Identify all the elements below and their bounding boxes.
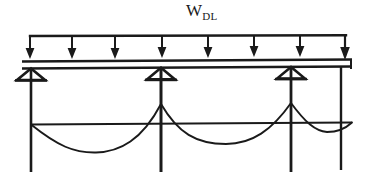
load-arrow-group [26,35,350,60]
continuous-beam [22,59,352,69]
load-arrow [204,36,213,58]
load-arrow [250,36,259,58]
deflection-datum-line [31,123,352,125]
load-line [30,35,346,36]
load-arrow [68,36,77,59]
load-arrow [340,35,350,60]
load-arrow [296,35,305,57]
load-arrow [26,36,35,59]
load-arrow [111,36,120,59]
load-arrow [158,36,167,58]
structural-diagram-figure: WDL [0,0,367,178]
deflection-curve [31,103,352,153]
diagram-canvas [0,0,367,178]
column-group [31,66,341,172]
